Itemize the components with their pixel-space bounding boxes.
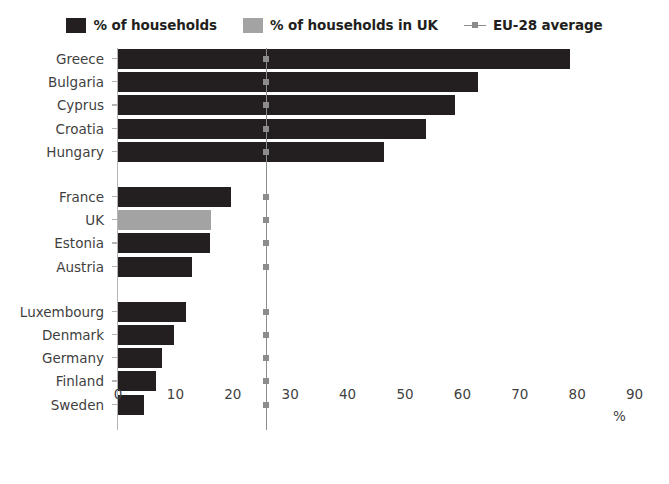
eu-28-average-marker	[263, 194, 269, 200]
square-swatch-icon	[66, 18, 86, 33]
bar-row: Hungary	[0, 141, 669, 163]
bar-croatia[interactable]	[118, 119, 426, 139]
legend-item-1[interactable]: % of households in UK	[243, 17, 438, 33]
bar-category-label: Austria	[0, 256, 104, 278]
y-axis-tick	[112, 196, 117, 197]
y-axis-tick	[112, 380, 117, 381]
bar-germany[interactable]	[118, 348, 162, 368]
bar-row: France	[0, 186, 669, 208]
bar-category-label: Bulgaria	[0, 71, 104, 93]
y-axis-tick	[112, 128, 117, 129]
bar-bulgaria[interactable]	[118, 72, 478, 92]
legend-item-0[interactable]: % of households	[66, 17, 216, 33]
y-axis-tick	[112, 81, 117, 82]
y-axis-tick	[112, 357, 117, 358]
y-axis-tick	[112, 242, 117, 243]
x-axis-tick-label: 30	[270, 386, 310, 402]
eu-28-average-marker	[263, 332, 269, 338]
bar-category-label: Estonia	[0, 232, 104, 254]
eu-28-average-marker	[263, 355, 269, 361]
bar-category-label: Hungary	[0, 141, 104, 163]
legend-item-2[interactable]: EU-28 average	[464, 17, 603, 33]
bar-row: Estonia	[0, 232, 669, 254]
x-axis-tick-label: 10	[155, 386, 195, 402]
bar-row: Bulgaria	[0, 71, 669, 93]
bar-cyprus[interactable]	[118, 95, 455, 115]
chart-legend: % of households% of households in UKEU-2…	[0, 12, 669, 38]
y-axis-tick	[112, 58, 117, 59]
bar-category-label: Croatia	[0, 118, 104, 140]
x-axis-tick-label: 0	[98, 386, 138, 402]
y-axis-tick	[112, 219, 117, 220]
bar-denmark[interactable]	[118, 325, 174, 345]
bar-luxembourg[interactable]	[118, 302, 186, 322]
x-axis-tick-label: 80	[557, 386, 597, 402]
x-axis-unit-label: %	[613, 408, 626, 424]
x-axis-tick-label: 70	[500, 386, 540, 402]
line-marker-icon	[464, 18, 486, 33]
eu-28-average-marker	[263, 102, 269, 108]
y-axis-tick	[112, 266, 117, 267]
bar-france[interactable]	[118, 187, 231, 207]
x-axis-tick-label: 60	[442, 386, 482, 402]
legend-label: % of households in UK	[270, 17, 438, 33]
bar-row: Greece	[0, 48, 669, 70]
y-axis-tick	[112, 334, 117, 335]
x-axis-tick-label: 40	[328, 386, 368, 402]
bar-row: Croatia	[0, 118, 669, 140]
bar-category-label: Greece	[0, 48, 104, 70]
y-axis-tick	[112, 151, 117, 152]
eu-28-average-marker	[263, 56, 269, 62]
bar-category-label: Luxembourg	[0, 301, 104, 323]
bar-estonia[interactable]	[118, 233, 210, 253]
bar-austria[interactable]	[118, 257, 192, 277]
legend-label: EU-28 average	[493, 17, 603, 33]
bar-row: Cyprus	[0, 94, 669, 116]
bar-category-label: France	[0, 186, 104, 208]
bar-row: Denmark	[0, 324, 669, 346]
x-axis: 0102030405060708090 %	[0, 386, 669, 436]
legend-label: % of households	[93, 17, 216, 33]
y-axis-tick	[112, 311, 117, 312]
x-axis-tick-label: 20	[213, 386, 253, 402]
eu-28-average-marker	[263, 79, 269, 85]
bar-row: UK	[0, 209, 669, 231]
eu-28-average-marker	[263, 264, 269, 270]
x-axis-tick-label: 50	[385, 386, 425, 402]
bar-row: Luxembourg	[0, 301, 669, 323]
bar-category-label: Germany	[0, 347, 104, 369]
bar-category-label: Cyprus	[0, 94, 104, 116]
eu-28-average-marker	[263, 149, 269, 155]
bar-hungary[interactable]	[118, 142, 384, 162]
bar-category-label: UK	[0, 209, 104, 231]
eu-28-average-marker	[263, 378, 269, 384]
eu-28-average-marker	[263, 126, 269, 132]
y-axis-tick	[112, 104, 117, 105]
bar-greece[interactable]	[118, 49, 570, 69]
bar-category-label: Denmark	[0, 324, 104, 346]
bar-row: Germany	[0, 347, 669, 369]
bar-uk[interactable]	[118, 210, 211, 230]
eu-28-average-marker	[263, 309, 269, 315]
eu-28-average-marker	[263, 240, 269, 246]
square-swatch-icon	[243, 18, 263, 33]
eu-28-average-marker	[263, 217, 269, 223]
bar-row: Austria	[0, 256, 669, 278]
x-axis-tick-label: 90	[615, 386, 655, 402]
